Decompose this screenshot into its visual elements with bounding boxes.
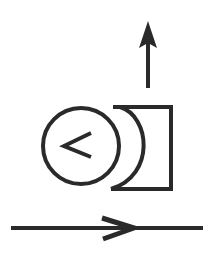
arrow-right-icon — [11, 218, 203, 239]
circle-icon — [43, 108, 119, 184]
diagram-svg — [0, 0, 220, 270]
less-than-icon — [64, 133, 91, 157]
diagram-canvas: Schematic symbol: rotary element with ve… — [0, 0, 220, 270]
arrow-up-icon — [139, 21, 157, 88]
